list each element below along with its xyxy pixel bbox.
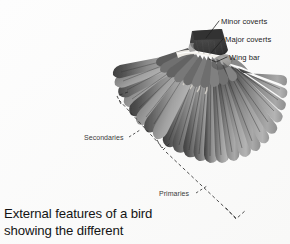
label-secondaries: Secondaries: [84, 133, 123, 142]
label-wing-bar: Wing bar: [229, 53, 260, 62]
covert-block: [189, 29, 229, 55]
caption-line-2: showing the different: [4, 223, 214, 240]
caption-line-1: External features of a bird: [4, 206, 214, 223]
label-minor-coverts: Minor coverts: [221, 17, 267, 26]
figure-caption: External features of a bird showing the …: [4, 206, 214, 239]
label-primaries: Primaries: [159, 189, 189, 198]
wing-diagram-figure: Minor coverts Major coverts Wing bar Sec…: [0, 0, 290, 244]
label-major-coverts: Major coverts: [225, 35, 271, 44]
